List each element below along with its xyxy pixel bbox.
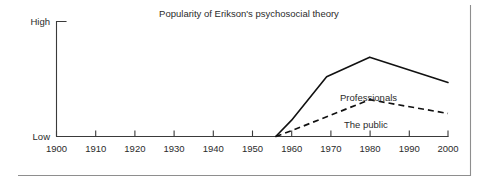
x-tick-label: 1980	[360, 143, 381, 154]
popularity-line-chart: Popularity of Erikson's psychosocial the…	[0, 0, 495, 182]
x-tick-label: 1930	[164, 143, 185, 154]
x-tick-label: 1900	[46, 143, 67, 154]
x-tick-label: 1940	[203, 143, 224, 154]
x-tick-label: 1950	[242, 143, 263, 154]
chart-figure: Popularity of Erikson's psychosocial the…	[0, 0, 495, 182]
y-axis-high-label: High	[30, 16, 50, 27]
series-label-the-public: The public	[344, 119, 388, 130]
x-tick-label: 1990	[399, 143, 420, 154]
series-label-professionals: Professionals	[340, 92, 397, 103]
value-axis	[57, 22, 449, 137]
chart-title: Popularity of Erikson's psychosocial the…	[159, 8, 339, 19]
x-axis-tick-labels: 1900 1910 1920 1930 1940 1950 1960 1970 …	[46, 143, 459, 154]
x-tick-label: 1960	[281, 143, 302, 154]
x-tick-label: 2000	[437, 143, 458, 154]
y-axis-low-label: Low	[33, 131, 51, 142]
x-axis-ticks	[57, 131, 449, 137]
x-tick-label: 1970	[320, 143, 341, 154]
x-tick-label: 1910	[85, 143, 106, 154]
x-tick-label: 1920	[124, 143, 145, 154]
